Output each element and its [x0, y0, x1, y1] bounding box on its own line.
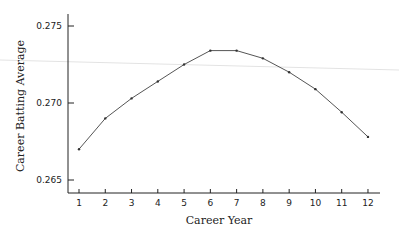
- data-point: [104, 117, 106, 119]
- data-point: [235, 49, 237, 51]
- data-point: [183, 63, 185, 65]
- x-tick-label: 10: [310, 198, 322, 208]
- x-tick-label: 12: [362, 198, 373, 208]
- y-tick-label: 0.275: [36, 21, 62, 31]
- data-point: [262, 57, 264, 59]
- y-tick-label: 0.265: [36, 175, 62, 185]
- x-tick-label: 11: [336, 198, 347, 208]
- x-tick-label: 8: [260, 198, 266, 208]
- scan-artifact-line: [0, 60, 399, 70]
- data-point: [288, 71, 290, 73]
- data-point: [341, 111, 343, 113]
- x-tick-label: 2: [102, 198, 108, 208]
- data-point: [367, 136, 369, 138]
- x-tick-label: 5: [181, 198, 187, 208]
- data-points: [78, 49, 369, 150]
- y-axis-title: Career Batting Average: [14, 40, 27, 172]
- x-tick-label: 1: [76, 198, 82, 208]
- x-tick-label: 3: [129, 198, 135, 208]
- x-axis-ticks: 123456789101112: [76, 189, 374, 208]
- x-axis-title: Career Year: [186, 214, 253, 227]
- data-point: [314, 88, 316, 90]
- data-point: [78, 148, 80, 150]
- x-tick-label: 7: [234, 198, 240, 208]
- y-tick-label: 0.270: [36, 98, 62, 108]
- x-tick-label: 6: [207, 198, 213, 208]
- data-point: [130, 97, 132, 99]
- x-tick-label: 9: [286, 198, 292, 208]
- data-point: [209, 49, 211, 51]
- line-chart: 0.2650.2700.275 123456789101112 Career Y…: [0, 0, 399, 237]
- data-point: [157, 80, 159, 82]
- x-tick-label: 4: [155, 198, 161, 208]
